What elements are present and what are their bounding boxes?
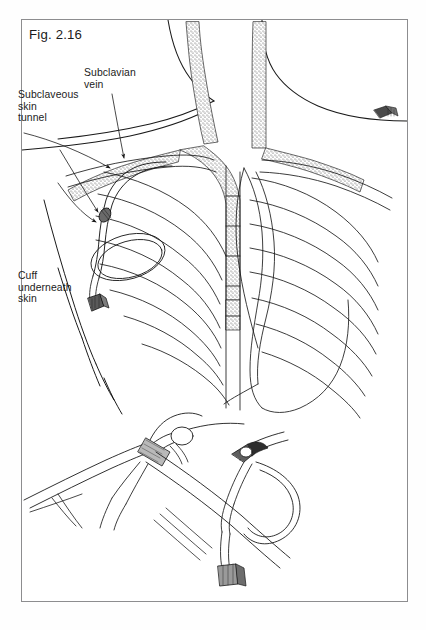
- label-cuff-underneath-skin: Cuff underneath skin: [18, 270, 72, 305]
- figure-page: Fig. 2.16 Subclavian vein Subclaveous sk…: [0, 0, 426, 630]
- label-subclavian-vein: Subclavian vein: [84, 67, 136, 90]
- figure-border-frame: [21, 19, 408, 602]
- label-subclaveous-skin-tunnel: Subclaveous skin tunnel: [18, 89, 79, 124]
- figure-number: Fig. 2.16: [29, 27, 82, 42]
